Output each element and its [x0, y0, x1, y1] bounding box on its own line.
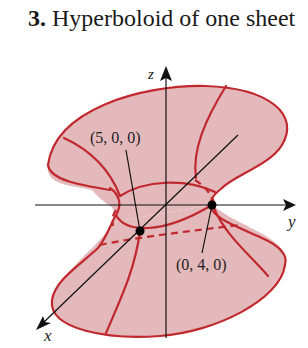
point-label-0-4-0: (0, 4, 0) [176, 256, 227, 274]
z-axis-label: z [148, 66, 154, 83]
x-axis-label: x [44, 326, 52, 346]
y-axis-label: y [288, 212, 296, 232]
point-label-5-0-0: (5, 0, 0) [90, 129, 141, 147]
hyperboloid-surface [48, 86, 287, 337]
point-0-4-0 [208, 201, 217, 210]
hyperboloid-diagram [0, 0, 308, 348]
point-5-0-0 [136, 227, 145, 236]
